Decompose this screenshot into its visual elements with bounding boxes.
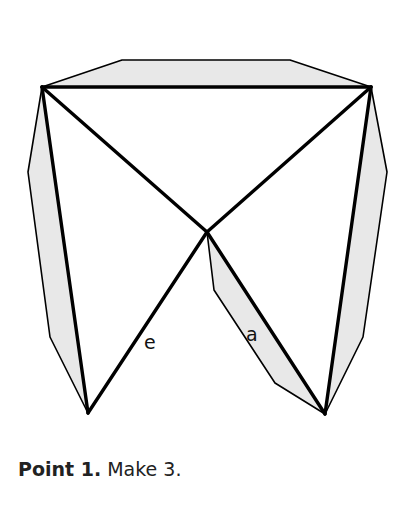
caption: Point 1. Make 3. [18, 458, 181, 480]
caption-point: Point 1. [18, 458, 101, 480]
label-e: e [144, 331, 156, 353]
caption-text: Make 3. [101, 458, 181, 480]
edge-e [88, 232, 207, 413]
label-a: a [246, 323, 258, 345]
left-flap [28, 87, 88, 413]
top-flap [42, 60, 371, 87]
diagonal-right [207, 87, 371, 232]
folding-diagram: e a [0, 0, 400, 450]
right-flap [325, 87, 387, 414]
diagonal-left [42, 87, 207, 232]
edge-a [207, 232, 325, 414]
